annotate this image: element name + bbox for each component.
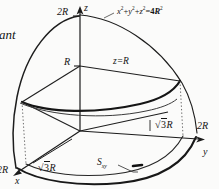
z-axis-tip-label-2r: 2R [57, 7, 68, 17]
equation-leader-line [104, 13, 114, 18]
sqrt-symbol-left: √ [38, 162, 44, 173]
region-symbol-sub: xy [102, 163, 107, 169]
y-axis-line [80, 131, 198, 139]
cut-radius-label-right: √3R [155, 120, 173, 130]
sphere-outline-right-arc [80, 15, 197, 133]
region-hatch-mark [133, 165, 142, 166]
cutting-plane-label: z=R [113, 57, 129, 67]
plane-radius-x [22, 66, 80, 102]
y-axis-tip-label-2r: 2R [197, 121, 208, 131]
sqrt-unit-right: R [167, 119, 173, 130]
figure-linework [0, 0, 219, 189]
z-axis-label: z [84, 3, 88, 13]
math-figure-sphere-octant: rant 2R z x2+y2+z2=4R2 R z=R √3R 2R y √3… [0, 0, 219, 189]
sphere-equation-label: x2+y2+z2=4R2 [117, 6, 163, 15]
eq-exp-r: 2 [160, 5, 163, 11]
dropline-left [22, 102, 26, 164]
plane-cut-arc [22, 81, 180, 111]
base-region-label: Sxy [97, 158, 107, 170]
plane-height-label-r: R [64, 57, 70, 67]
plane-radius-y [80, 66, 180, 81]
dropline-right [180, 81, 183, 136]
y-axis-label: y [203, 147, 207, 157]
x-axis-label: x [15, 176, 19, 186]
y-axis-arrowhead [196, 137, 205, 143]
sqrt-unit-left: R [50, 162, 56, 173]
sqrt-symbol-right: √ [155, 119, 161, 130]
chord-marker-left [33, 139, 72, 163]
sphere-outline-left-arc [13, 16, 79, 168]
quadrant-caption-text: rant [0, 28, 16, 41]
cut-radius-label-left: √3R [38, 163, 56, 173]
frustum-edge-left [22, 102, 80, 131]
x-axis-tip-label-2r: 2R [0, 165, 8, 175]
